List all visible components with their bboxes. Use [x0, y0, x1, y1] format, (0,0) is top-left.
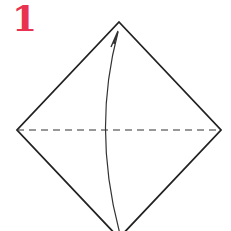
fold-arrow	[105, 32, 120, 231]
paper-diamond	[17, 22, 221, 231]
origami-diagram	[0, 0, 231, 231]
